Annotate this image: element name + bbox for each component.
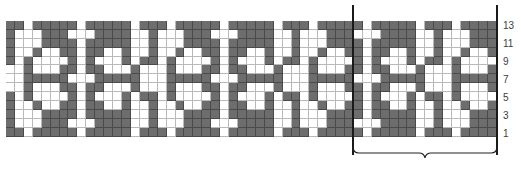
main-stitch-cell — [220, 48, 229, 57]
contrast-stitch-cell — [354, 83, 363, 92]
chart-row-9 — [6, 57, 497, 66]
main-stitch-cell — [247, 101, 256, 110]
contrast-stitch-cell — [283, 21, 292, 30]
contrast-stitch-cell — [122, 57, 131, 66]
contrast-stitch-cell — [122, 119, 131, 128]
contrast-stitch-cell — [390, 119, 399, 128]
main-stitch-cell — [309, 30, 318, 39]
main-stitch-cell — [104, 92, 113, 101]
contrast-stitch-cell — [247, 30, 256, 39]
main-stitch-cell — [274, 119, 283, 128]
main-stitch-cell — [372, 119, 381, 128]
contrast-stitch-cell — [95, 30, 104, 39]
main-stitch-cell — [51, 57, 60, 66]
main-stitch-cell — [363, 128, 372, 137]
main-stitch-cell — [33, 110, 42, 119]
main-stitch-cell — [193, 48, 202, 57]
contrast-stitch-cell — [434, 92, 443, 101]
contrast-stitch-cell — [399, 21, 408, 30]
main-stitch-cell — [300, 57, 309, 66]
contrast-stitch-cell — [122, 101, 131, 110]
contrast-stitch-cell — [60, 30, 69, 39]
contrast-stitch-cell — [470, 30, 479, 39]
main-stitch-cell — [283, 110, 292, 119]
contrast-stitch-cell — [292, 39, 301, 48]
contrast-stitch-cell — [122, 74, 131, 83]
contrast-stitch-cell — [425, 128, 434, 137]
contrast-stitch-cell — [202, 101, 211, 110]
main-stitch-cell — [158, 101, 167, 110]
main-stitch-cell — [229, 74, 238, 83]
contrast-stitch-cell — [309, 65, 318, 74]
chart-row-5 — [6, 92, 497, 101]
main-stitch-cell — [158, 39, 167, 48]
main-stitch-cell — [318, 92, 327, 101]
main-stitch-cell — [256, 48, 265, 57]
main-stitch-cell — [461, 92, 470, 101]
contrast-stitch-cell — [211, 21, 220, 30]
main-stitch-cell — [443, 30, 452, 39]
main-stitch-cell — [77, 57, 86, 66]
main-stitch-cell — [318, 65, 327, 74]
contrast-stitch-cell — [381, 101, 390, 110]
main-stitch-cell — [292, 83, 301, 92]
repeat-start-line — [352, 5, 354, 155]
contrast-stitch-cell — [68, 92, 77, 101]
main-stitch-cell — [274, 110, 283, 119]
contrast-stitch-cell — [95, 65, 104, 74]
main-stitch-cell — [416, 101, 425, 110]
contrast-stitch-cell — [327, 21, 336, 30]
main-stitch-cell — [220, 128, 229, 137]
contrast-stitch-cell — [390, 128, 399, 137]
contrast-stitch-cell — [68, 48, 77, 57]
contrast-stitch-cell — [33, 21, 42, 30]
contrast-stitch-cell — [407, 74, 416, 83]
contrast-stitch-cell — [202, 74, 211, 83]
main-stitch-cell — [113, 48, 122, 57]
contrast-stitch-cell — [95, 48, 104, 57]
main-stitch-cell — [479, 92, 488, 101]
main-stitch-cell — [184, 57, 193, 66]
contrast-stitch-cell — [211, 39, 220, 48]
main-stitch-cell — [274, 21, 283, 30]
main-stitch-cell — [470, 101, 479, 110]
contrast-stitch-cell — [211, 57, 220, 66]
main-stitch-cell — [327, 92, 336, 101]
contrast-stitch-cell — [104, 119, 113, 128]
main-stitch-cell — [318, 57, 327, 66]
main-stitch-cell — [77, 92, 86, 101]
main-stitch-cell — [381, 57, 390, 66]
main-stitch-cell — [363, 21, 372, 30]
contrast-stitch-cell — [68, 39, 77, 48]
main-stitch-cell — [176, 39, 185, 48]
contrast-stitch-cell — [184, 30, 193, 39]
contrast-stitch-cell — [390, 30, 399, 39]
contrast-stitch-cell — [336, 128, 345, 137]
contrast-stitch-cell — [113, 39, 122, 48]
contrast-stitch-cell — [229, 39, 238, 48]
contrast-stitch-cell — [86, 128, 95, 137]
main-stitch-cell — [363, 74, 372, 83]
contrast-stitch-cell — [113, 74, 122, 83]
main-stitch-cell — [6, 83, 15, 92]
main-stitch-cell — [283, 65, 292, 74]
contrast-stitch-cell — [461, 74, 470, 83]
contrast-stitch-cell — [60, 65, 69, 74]
contrast-stitch-cell — [354, 92, 363, 101]
contrast-stitch-cell — [381, 48, 390, 57]
contrast-stitch-cell — [60, 119, 69, 128]
contrast-stitch-cell — [309, 74, 318, 83]
contrast-stitch-cell — [211, 110, 220, 119]
contrast-stitch-cell — [229, 128, 238, 137]
main-stitch-cell — [363, 65, 372, 74]
contrast-stitch-cell — [265, 21, 274, 30]
main-stitch-cell — [425, 65, 434, 74]
main-stitch-cell — [24, 21, 33, 30]
contrast-stitch-cell — [247, 39, 256, 48]
contrast-stitch-cell — [354, 110, 363, 119]
contrast-stitch-cell — [51, 39, 60, 48]
contrast-stitch-cell — [6, 92, 15, 101]
contrast-stitch-cell — [354, 65, 363, 74]
contrast-stitch-cell — [407, 128, 416, 137]
main-stitch-cell — [292, 74, 301, 83]
